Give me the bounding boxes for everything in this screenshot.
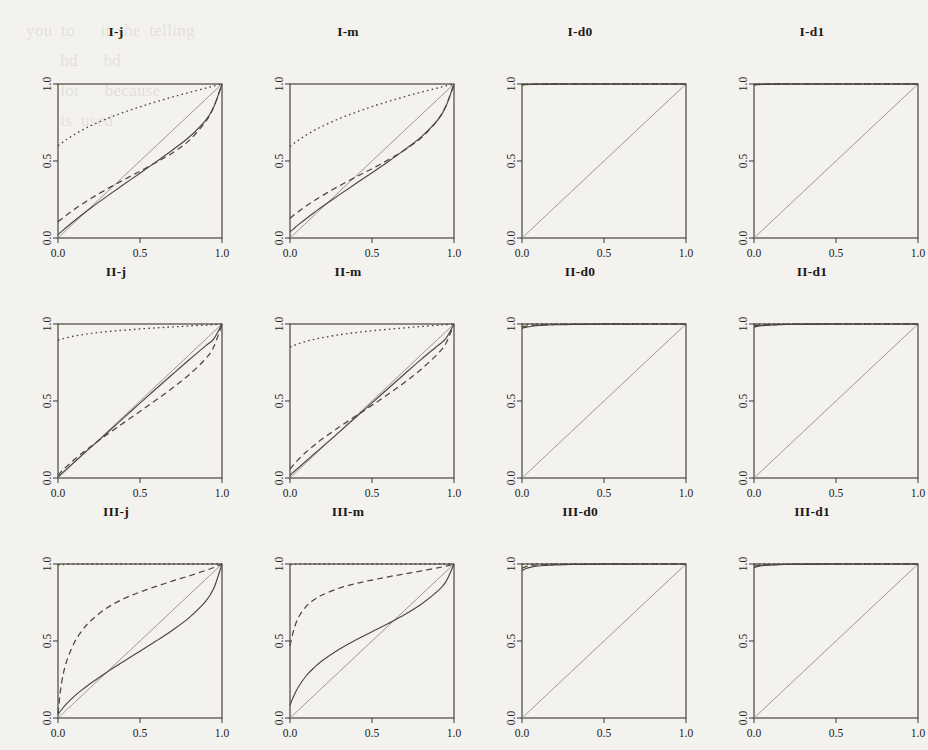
- panel-grid: I-j0.00.51.00.00.51.0I-m0.00.51.00.00.51…: [0, 0, 928, 750]
- x-tick-label: 0.5: [829, 727, 844, 738]
- x-tick-label: 0.0: [747, 727, 762, 738]
- x-tick-label: 0.0: [283, 487, 298, 498]
- x-tick-label: 0.5: [365, 247, 380, 258]
- series-dotted: [58, 84, 222, 146]
- y-tick-label: 0.5: [41, 394, 53, 409]
- panel-title: III-d0: [464, 504, 696, 520]
- series-reference: [522, 564, 686, 718]
- series-dashed: [58, 84, 222, 222]
- y-tick-label: 0.0: [41, 711, 53, 726]
- y-tick-label: 1.0: [273, 317, 285, 332]
- x-tick-label: 0.0: [747, 487, 762, 498]
- panel-title: II-d0: [464, 264, 696, 280]
- panel-title: I-d1: [696, 24, 928, 40]
- plot-panel-ii-j: II-j0.00.51.00.00.51.0: [0, 258, 232, 498]
- x-tick-label: 1.0: [447, 727, 462, 738]
- y-tick-label: 1.0: [505, 557, 517, 572]
- plot-panel-i-m: I-m0.00.51.00.00.51.0: [232, 18, 464, 258]
- y-tick-label: 0.5: [737, 634, 749, 649]
- plot-panel-i-d1: I-d10.00.51.00.00.51.0: [696, 18, 928, 258]
- y-tick-label: 0.5: [41, 154, 53, 169]
- y-tick-label: 0.0: [273, 231, 285, 246]
- y-tick-label: 0.0: [737, 471, 749, 486]
- panel-title: II-d1: [696, 264, 928, 280]
- panel-title: II-m: [232, 264, 464, 280]
- y-tick-label: 0.5: [505, 154, 517, 169]
- x-tick-label: 0.0: [515, 247, 530, 258]
- y-tick-label: 0.0: [273, 471, 285, 486]
- y-tick-label: 0.0: [737, 231, 749, 246]
- plot-panel-iii-m: III-m0.00.51.00.00.51.0: [232, 498, 464, 738]
- series-dashed: [290, 324, 454, 469]
- x-tick-label: 1.0: [911, 487, 926, 498]
- x-tick-label: 0.0: [515, 727, 530, 738]
- plot-panel-iii-d0: III-d00.00.51.00.00.51.0: [464, 498, 696, 738]
- x-tick-label: 0.5: [829, 487, 844, 498]
- y-tick-label: 1.0: [505, 77, 517, 92]
- x-tick-label: 1.0: [679, 247, 694, 258]
- series-dotted: [290, 564, 454, 565]
- series-solid: [290, 564, 454, 705]
- y-tick-label: 0.5: [505, 634, 517, 649]
- x-tick-label: 0.5: [597, 727, 612, 738]
- plot-panel-ii-d0: II-d00.00.51.00.00.51.0: [464, 258, 696, 498]
- x-tick-label: 1.0: [679, 727, 694, 738]
- plot-panel-ii-m: II-m0.00.51.00.00.51.0: [232, 258, 464, 498]
- x-tick-label: 1.0: [215, 247, 230, 258]
- series-dotted: [290, 84, 454, 146]
- series-reference: [58, 564, 222, 718]
- y-tick-label: 0.0: [505, 231, 517, 246]
- panel-title: I-j: [0, 24, 232, 40]
- plot-panel-iii-d1: III-d10.00.51.00.00.51.0: [696, 498, 928, 738]
- series-reference: [522, 324, 686, 478]
- x-tick-label: 0.5: [365, 487, 380, 498]
- y-tick-label: 0.5: [41, 634, 53, 649]
- x-tick-label: 0.0: [51, 247, 66, 258]
- y-tick-label: 0.0: [737, 711, 749, 726]
- series-dotted: [58, 324, 222, 340]
- series-reference: [754, 564, 918, 718]
- y-tick-label: 1.0: [737, 317, 749, 332]
- x-tick-label: 1.0: [911, 727, 926, 738]
- y-tick-label: 0.0: [41, 471, 53, 486]
- x-tick-label: 0.0: [747, 247, 762, 258]
- x-tick-label: 0.5: [133, 727, 148, 738]
- plot-panel-i-d0: I-d00.00.51.00.00.51.0: [464, 18, 696, 258]
- y-tick-label: 0.0: [505, 471, 517, 486]
- x-tick-label: 1.0: [447, 487, 462, 498]
- y-tick-label: 0.5: [273, 154, 285, 169]
- y-tick-label: 0.0: [273, 711, 285, 726]
- x-tick-label: 1.0: [215, 487, 230, 498]
- x-tick-label: 0.0: [283, 247, 298, 258]
- x-tick-label: 0.0: [515, 487, 530, 498]
- x-tick-label: 0.0: [51, 487, 66, 498]
- series-dashed: [290, 564, 454, 646]
- series-dashed: [58, 564, 222, 713]
- y-tick-label: 0.0: [505, 711, 517, 726]
- x-tick-label: 0.0: [51, 727, 66, 738]
- series-reference: [754, 84, 918, 238]
- panel-title: I-d0: [464, 24, 696, 40]
- series-reference: [754, 324, 918, 478]
- series-reference: [290, 564, 454, 718]
- panel-title: III-m: [232, 504, 464, 520]
- y-tick-label: 1.0: [41, 77, 53, 92]
- series-dotted: [290, 324, 454, 347]
- y-tick-label: 1.0: [273, 77, 285, 92]
- y-tick-label: 1.0: [505, 317, 517, 332]
- x-tick-label: 0.0: [283, 727, 298, 738]
- y-tick-label: 0.0: [41, 231, 53, 246]
- plot-panel-i-j: I-j0.00.51.00.00.51.0: [0, 18, 232, 258]
- y-tick-label: 0.5: [737, 394, 749, 409]
- panel-title: III-d1: [696, 504, 928, 520]
- panel-title: I-m: [232, 24, 464, 40]
- x-tick-label: 0.5: [365, 727, 380, 738]
- y-tick-label: 1.0: [737, 77, 749, 92]
- series-reference: [522, 84, 686, 238]
- series-dotted: [58, 564, 222, 565]
- x-tick-label: 1.0: [911, 247, 926, 258]
- y-tick-label: 0.5: [505, 394, 517, 409]
- plot-panel-iii-j: III-j0.00.51.00.00.51.0: [0, 498, 232, 738]
- series-dashed: [290, 84, 454, 218]
- x-tick-label: 1.0: [447, 247, 462, 258]
